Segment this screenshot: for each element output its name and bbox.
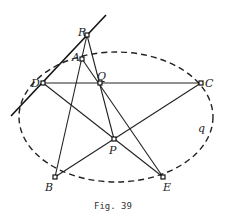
conic-q — [19, 52, 213, 182]
point-p — [112, 137, 116, 141]
label-d: D — [30, 77, 40, 90]
label-r: R — [77, 26, 86, 39]
label-p: P — [108, 144, 117, 157]
figure-39-diagram: R A D Q C P B E q Fig. 39 — [0, 0, 225, 214]
point-markers — [41, 33, 203, 179]
label-q: Q — [97, 70, 106, 83]
tangent-line-d — [11, 15, 106, 116]
label-e: E — [162, 181, 171, 194]
label-a: A — [71, 51, 80, 64]
segment-bc — [55, 83, 201, 177]
point-b — [53, 175, 57, 179]
label-b: B — [44, 181, 53, 194]
point-c — [199, 81, 203, 85]
figure-caption: Fig. 39 — [94, 201, 132, 211]
point-d — [41, 81, 45, 85]
point-e — [161, 175, 165, 179]
segment-ae — [82, 59, 163, 177]
label-c: C — [205, 77, 214, 90]
point-a — [80, 57, 84, 61]
segment-rp — [87, 35, 114, 139]
segment-br — [55, 35, 87, 177]
label-conic-q: q — [198, 122, 205, 135]
